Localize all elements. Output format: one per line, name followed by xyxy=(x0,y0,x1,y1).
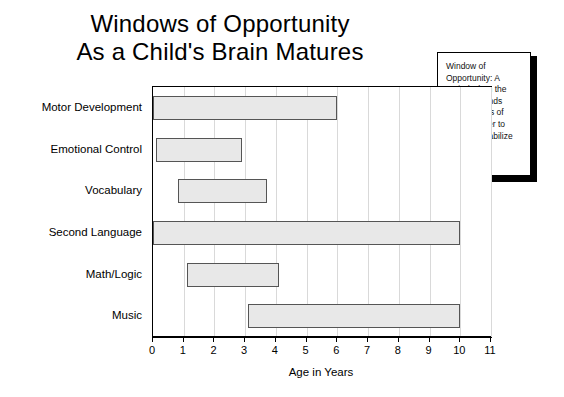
x-tick xyxy=(459,336,460,342)
chart-canvas: Windows of Opportunity As a Child's Brai… xyxy=(0,0,564,397)
category-label-emotional-control: Emotional Control xyxy=(0,142,142,156)
gridline xyxy=(337,87,338,337)
bar-motor-development xyxy=(153,96,337,120)
gridline xyxy=(245,87,246,337)
gridline xyxy=(491,87,492,337)
x-tick-label: 7 xyxy=(355,344,379,356)
x-tick xyxy=(183,336,184,342)
x-tick xyxy=(398,336,399,342)
bar-second-language xyxy=(153,221,460,245)
category-label-music: Music xyxy=(0,308,142,322)
x-tick-label: 2 xyxy=(201,344,225,356)
category-label-column: Motor DevelopmentEmotional ControlVocabu… xyxy=(0,86,146,336)
x-tick xyxy=(244,336,245,342)
x-tick-label: 4 xyxy=(263,344,287,356)
x-tick xyxy=(213,336,214,342)
x-tick-label: 9 xyxy=(417,344,441,356)
gridline xyxy=(214,87,215,337)
x-tick xyxy=(152,336,153,342)
x-tick-label: 8 xyxy=(386,344,410,356)
x-tick-label: 6 xyxy=(324,344,348,356)
bar-math-logic xyxy=(187,263,279,287)
x-tick xyxy=(490,336,491,342)
plot-inner xyxy=(153,87,491,337)
x-tick xyxy=(367,336,368,342)
category-label-motor-development: Motor Development xyxy=(0,100,142,114)
x-tick xyxy=(306,336,307,342)
x-tick-label: 11 xyxy=(478,344,502,356)
x-tick xyxy=(275,336,276,342)
x-tick-label: 0 xyxy=(140,344,164,356)
gridline xyxy=(430,87,431,337)
x-tick xyxy=(336,336,337,342)
title-line-2: As a Child's Brain Matures xyxy=(0,38,440,66)
gridline xyxy=(368,87,369,337)
bar-emotional-control xyxy=(156,138,242,162)
page-title: Windows of Opportunity As a Child's Brai… xyxy=(0,10,440,66)
x-tick-label: 1 xyxy=(171,344,195,356)
category-label-math-logic: Math/Logic xyxy=(0,267,142,281)
plot-area xyxy=(152,86,492,338)
title-line-1: Windows of Opportunity xyxy=(0,10,440,38)
x-axis-label: Age in Years xyxy=(152,366,490,378)
gridline xyxy=(399,87,400,337)
x-tick-label: 5 xyxy=(294,344,318,356)
x-axis: 01234567891011 xyxy=(152,336,490,337)
gridline xyxy=(307,87,308,337)
x-tick xyxy=(429,336,430,342)
gridline xyxy=(276,87,277,337)
category-label-vocabulary: Vocabulary xyxy=(0,183,142,197)
gridline xyxy=(460,87,461,337)
category-label-second-language: Second Language xyxy=(0,225,142,239)
bar-vocabulary xyxy=(178,179,267,203)
x-tick-label: 3 xyxy=(232,344,256,356)
x-tick-label: 10 xyxy=(447,344,471,356)
gridline xyxy=(184,87,185,337)
bar-music xyxy=(248,304,460,328)
